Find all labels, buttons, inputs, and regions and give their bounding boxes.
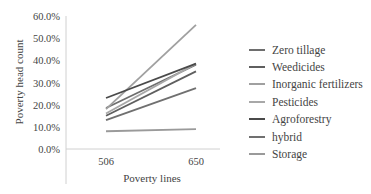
- y-tick-label: 0.0%: [38, 144, 60, 155]
- legend-item: Weedicides: [249, 58, 363, 75]
- legend-label: Agroforestry: [272, 113, 331, 125]
- y-tick-label: 10.0%: [33, 122, 60, 133]
- legend-label: Pesticides: [272, 96, 318, 108]
- series-line-inorganic-fertilizers: [106, 25, 196, 109]
- y-tick-label: 40.0%: [33, 55, 60, 66]
- x-tick-label: 650: [188, 156, 204, 167]
- legend-swatch-icon: [249, 83, 265, 85]
- legend-label: Weedicides: [272, 61, 325, 73]
- legend-label: Inorganic fertilizers: [272, 78, 363, 90]
- x-axis-ticks: 506650: [98, 156, 204, 167]
- legend-swatch-icon: [249, 118, 265, 120]
- y-tick-label: 50.0%: [33, 33, 60, 44]
- chart-legend: Zero tillageWeedicidesInorganic fertiliz…: [249, 41, 363, 163]
- series-lines: [106, 25, 196, 131]
- y-tick-label: 30.0%: [33, 78, 60, 89]
- series-line-pesticides: [106, 64, 196, 114]
- legend-swatch-icon: [249, 49, 265, 51]
- legend-item: Inorganic fertilizers: [249, 76, 363, 93]
- legend-label: Zero tillage: [272, 44, 325, 56]
- y-tick-label: 60.0%: [33, 11, 60, 22]
- x-axis-title: Poverty lines: [123, 172, 181, 184]
- y-tick-label: 20.0%: [33, 100, 60, 111]
- legend-item: hybrid: [249, 128, 363, 145]
- legend-swatch-icon: [249, 136, 265, 138]
- legend-label: Storage: [272, 148, 307, 160]
- y-axis-title: Poverty head count: [13, 40, 25, 125]
- legend-swatch-icon: [249, 66, 265, 68]
- legend-item: Agroforestry: [249, 111, 363, 128]
- legend-swatch-icon: [249, 101, 265, 103]
- y-axis-ticks: 0.0%10.0%20.0%30.0%40.0%50.0%60.0%: [33, 11, 60, 155]
- x-tick-label: 506: [98, 156, 114, 167]
- legend-item: Zero tillage: [249, 41, 363, 58]
- legend-swatch-icon: [249, 153, 265, 155]
- legend-item: Storage: [249, 145, 363, 162]
- series-line-storage: [106, 129, 196, 131]
- legend-item: Pesticides: [249, 93, 363, 110]
- legend-label: hybrid: [272, 131, 302, 143]
